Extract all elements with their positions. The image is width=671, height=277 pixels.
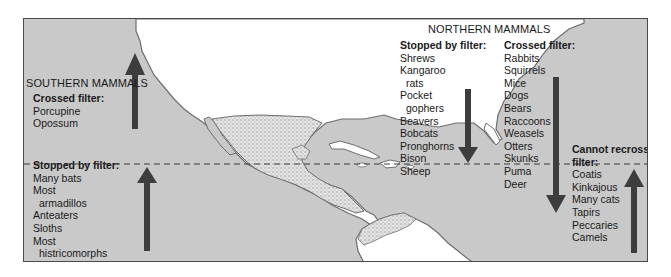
southern-stopped-group: Stopped by filter: Many bats Most armadi… [33,159,119,260]
northern-stopped-group: Stopped by filter: Shrews Kangaroo rats … [400,39,486,178]
northern-stopped-item: Bobcats [400,127,486,140]
cannot-recross-item: Camels [572,231,648,244]
northern-stopped-item: gophers [400,102,486,115]
cannot-recross-title-line2: filter: [572,156,648,169]
northern-mammals-heading: NORTHERN MAMMALS [428,23,550,36]
northern-crossed-group: Crossed filter: Rabbits Squirrels Mice D… [504,39,575,190]
southern-crossed-item: Opossum [33,117,104,130]
northern-stopped-item: Shrews [400,52,486,65]
northern-stopped-item: Pocket [400,89,486,102]
cannot-recross-item: Kinkajous [572,181,648,194]
northern-crossed-item: Raccoons [504,115,575,128]
southern-stopped-item: histricomorphs [33,247,119,260]
southern-crossed-group: Crossed filter: Porcupine Opossum [33,92,104,130]
cannot-recross-title-line1: Cannot recross [572,143,648,156]
northern-stopped-item: rats [400,77,486,90]
northern-crossed-item: Rabbits [504,52,575,65]
southern-mammals-heading: SOUTHERN MAMMALS [26,77,148,90]
northern-crossed-title: Crossed filter: [504,39,575,52]
northern-crossed-item: Puma [504,165,575,178]
southern-stopped-item: Most [33,235,119,248]
northern-stopped-item: Sheep [400,165,486,178]
northern-stopped-item: Bison [400,152,486,165]
cannot-recross-item: Coatis [572,168,648,181]
cuba [329,141,380,159]
southern-crossed-item: Porcupine [33,105,104,118]
northern-crossed-item: Weasels [504,127,575,140]
cannot-recross-group: Cannot recross filter: Coatis Kinkajous … [572,143,648,244]
northern-crossed-item: Otters [504,140,575,153]
cannot-recross-item: Peccaries [572,219,648,232]
cannot-recross-item: Many cats [572,193,648,206]
southern-stopped-title: Stopped by filter: [33,159,119,172]
arrow-southern-crossed-up [125,53,145,129]
northern-crossed-item: Skunks [504,152,575,165]
southern-stopped-item: Many bats [33,172,119,185]
northern-stopped-item: Beavers [400,115,486,128]
northern-crossed-item: Squirrels [504,64,575,77]
northern-stopped-item: Pronghorns [400,140,486,153]
figure-frame: SOUTHERN MAMMALS Crossed filter: Porcupi… [23,18,648,262]
northern-stopped-item: Kangaroo [400,64,486,77]
southern-stopped-item: Sloths [33,222,119,235]
northern-crossed-item: Mice [504,77,575,90]
southern-stopped-item: armadillos [33,197,119,210]
southern-crossed-title: Crossed filter: [33,92,104,105]
northern-stopped-title: Stopped by filter: [400,39,486,52]
northern-crossed-item: Dogs [504,89,575,102]
arrow-southern-stopped-up [137,167,157,251]
southern-stopped-item: Anteaters [33,209,119,222]
northern-crossed-item: Bears [504,102,575,115]
southern-stopped-item: Most [33,184,119,197]
northern-crossed-item: Deer [504,178,575,191]
cannot-recross-item: Tapirs [572,206,648,219]
